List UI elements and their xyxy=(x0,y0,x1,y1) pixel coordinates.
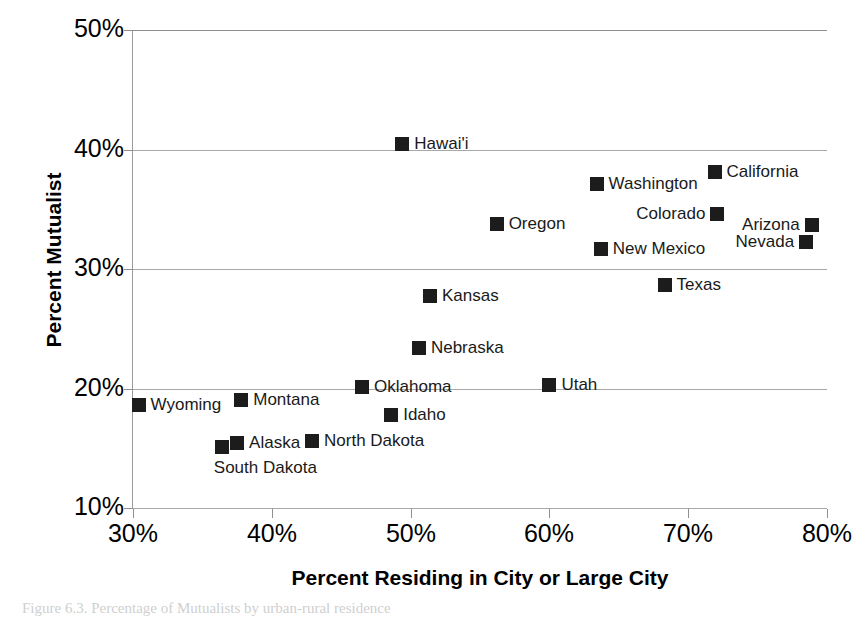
data-point-marker xyxy=(305,434,319,448)
y-axis-tickmark xyxy=(124,30,133,31)
data-point-marker xyxy=(590,177,604,191)
data-point-marker xyxy=(215,440,229,454)
x-axis-tick-label: 60% xyxy=(499,519,599,548)
data-point-marker xyxy=(230,436,244,450)
x-axis-tick-label: 30% xyxy=(83,519,183,548)
data-point-label: Texas xyxy=(677,276,721,293)
data-point-marker xyxy=(805,218,819,232)
data-point-label: North Dakota xyxy=(324,432,424,449)
x-axis-tickmark xyxy=(411,509,412,518)
data-point-label-text: Colorado xyxy=(636,205,705,222)
x-axis-tickmark xyxy=(133,509,134,518)
y-axis-tick-label: 20% xyxy=(36,373,124,402)
x-axis-tick-label: 80% xyxy=(777,519,863,548)
data-point-marker xyxy=(423,289,437,303)
y-axis-tickmark xyxy=(124,508,133,509)
data-point-label: South Dakota xyxy=(214,459,317,476)
data-point-label: Hawai'i xyxy=(414,135,468,152)
data-point-marker xyxy=(542,378,556,392)
figure-caption: Figure 6.3. Percentage of Mutualists by … xyxy=(0,600,863,618)
data-point-marker xyxy=(710,207,724,221)
y-axis-tick-label: 10% xyxy=(36,492,124,521)
x-axis-tick-label: 40% xyxy=(222,519,322,548)
data-point-label: Nebraska xyxy=(431,339,504,356)
data-point-label-text: Arizona xyxy=(742,216,800,233)
x-axis-tickmark xyxy=(827,509,828,518)
x-axis-tick-label: 50% xyxy=(361,519,461,548)
data-point-marker xyxy=(708,165,722,179)
data-point-label: Oregon xyxy=(509,215,566,232)
data-point-label: Wyoming xyxy=(151,396,222,413)
data-point-marker xyxy=(132,398,146,412)
plot-area: WyomingAlaskaSouth DakotaMontanaNorth Da… xyxy=(133,30,827,508)
x-axis-tickmark xyxy=(549,509,550,518)
y-axis-tickmark xyxy=(124,269,133,270)
x-axis-tickmark xyxy=(688,509,689,518)
data-point-label: New Mexico xyxy=(613,240,706,257)
data-point-label: Oklahoma xyxy=(374,378,451,395)
data-point-marker xyxy=(234,393,248,407)
data-point-label: Kansas xyxy=(442,287,499,304)
x-axis-tickmark xyxy=(272,509,273,518)
y-axis-tick-label: 30% xyxy=(36,253,124,282)
data-point-marker xyxy=(395,137,409,151)
data-point-marker xyxy=(355,380,369,394)
x-axis-title: Percent Residing in City or Large City xyxy=(133,566,827,590)
data-point-label: Idaho xyxy=(403,406,446,423)
data-point-label-text: Nevada xyxy=(736,233,795,250)
data-point-marker xyxy=(412,341,426,355)
data-point-label: California xyxy=(727,163,799,180)
y-axis-tickmark xyxy=(124,150,133,151)
y-axis-tickmark xyxy=(124,389,133,390)
y-axis-tick-label: 40% xyxy=(36,134,124,163)
scatter-chart-figure: Percent Mutualist Percent Residing in Ci… xyxy=(0,0,863,618)
data-point-marker xyxy=(594,242,608,256)
gridline xyxy=(133,508,827,509)
data-point-label: Alaska xyxy=(249,434,300,451)
data-point-marker xyxy=(384,408,398,422)
data-point-label: Montana xyxy=(253,391,319,408)
y-axis-tick-label: 50% xyxy=(36,14,124,43)
x-axis-tick-label: 70% xyxy=(638,519,738,548)
data-point-marker xyxy=(658,278,672,292)
data-point-label: Washington xyxy=(609,175,698,192)
data-point-marker xyxy=(490,217,504,231)
data-point-label: Utah xyxy=(561,376,597,393)
data-point-marker xyxy=(799,235,813,249)
